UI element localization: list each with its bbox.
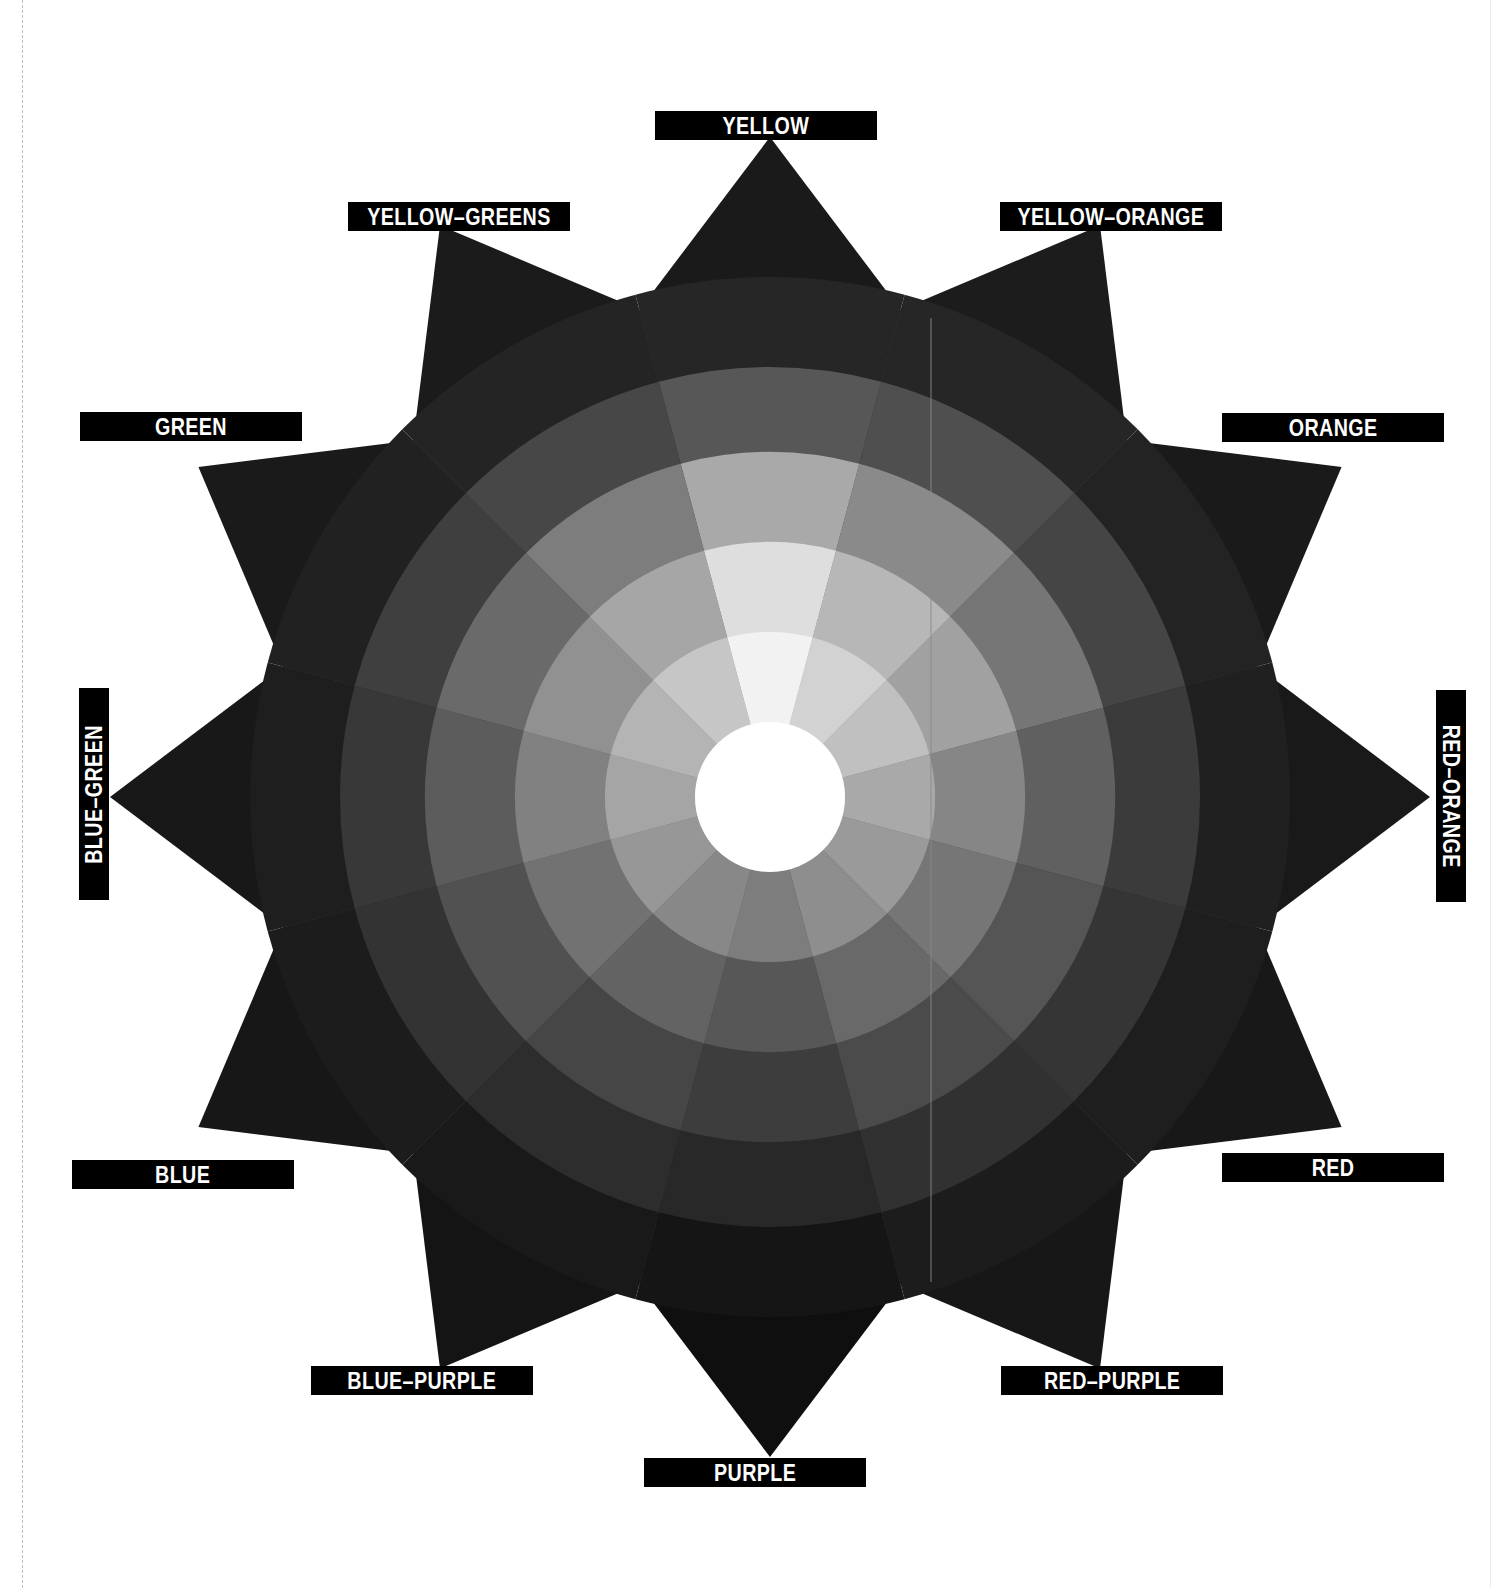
label-text: BLUE–GREEN <box>80 725 108 864</box>
label-text: GREEN <box>155 413 227 441</box>
label-text: BLUE–PURPLE <box>348 1367 497 1395</box>
label-text: YELLOW <box>723 112 810 140</box>
label-text: RED <box>1312 1154 1355 1182</box>
center-white-circle <box>695 722 845 872</box>
color-wheel-diagram <box>0 0 1498 1588</box>
label-red-purple: RED–PURPLE <box>1001 1366 1223 1395</box>
label-red-orange: RED–ORANGE <box>1436 690 1466 902</box>
label-yellow: YELLOW <box>655 111 877 140</box>
label-text: YELLOW–GREENS <box>367 203 551 231</box>
label-blue: BLUE <box>72 1160 294 1189</box>
label-text: ORANGE <box>1289 414 1378 442</box>
label-purple: PURPLE <box>644 1458 866 1487</box>
label-text: RED–PURPLE <box>1044 1367 1180 1395</box>
label-green: GREEN <box>80 412 302 441</box>
label-blue-purple: BLUE–PURPLE <box>311 1366 533 1395</box>
label-yellow-orange: YELLOW–ORANGE <box>1000 202 1222 231</box>
label-yellow-greens: YELLOW–GREENS <box>348 202 570 231</box>
label-text: YELLOW–ORANGE <box>1018 203 1205 231</box>
label-orange: ORANGE <box>1222 413 1444 442</box>
label-blue-green: BLUE–GREEN <box>79 688 109 900</box>
label-text: BLUE <box>155 1161 210 1189</box>
label-red: RED <box>1222 1153 1444 1182</box>
label-text: RED–ORANGE <box>1437 725 1465 868</box>
label-text: PURPLE <box>714 1459 796 1487</box>
